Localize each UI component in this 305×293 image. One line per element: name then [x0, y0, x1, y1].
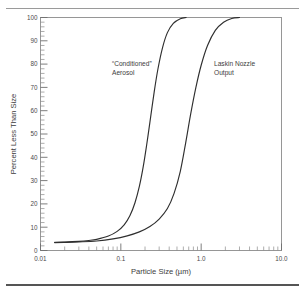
particle-size-plot: 0102030405060708090100 0.010.11.010.0 “C…	[0, 0, 305, 293]
y-tick-label-50: 50	[30, 130, 38, 137]
y-axis-major-ticks	[41, 18, 48, 251]
x-axis-tick-labels: 0.010.11.010.0	[34, 255, 288, 262]
y-axis-tick-labels: 0102030405060708090100	[27, 14, 38, 254]
y-tick-label-70: 70	[30, 84, 38, 91]
bottom-divider-rule	[6, 284, 299, 286]
y-axis-title: Percent Less Than Size	[9, 94, 18, 174]
series-label-laskin-nozzle-line1: Laskin Nozzle	[214, 60, 255, 67]
x-tick-label-10: 10.0	[275, 255, 288, 262]
curve-conditioned-aerosol	[55, 18, 186, 243]
series-label-conditioned-aerosol-line1: “Conditioned”	[112, 60, 152, 67]
series-label-conditioned-aerosol-line2: Aerosol	[112, 69, 135, 76]
x-tick-label-0.01: 0.01	[34, 255, 47, 262]
x-axis-major-ticks	[41, 244, 282, 251]
x-tick-label-0.1: 0.1	[116, 255, 125, 262]
x-axis-minor-ticks	[65, 247, 278, 251]
y-tick-label-100: 100	[27, 14, 38, 21]
series-label-laskin-nozzle-line2: Output	[214, 69, 234, 77]
y-tick-label-90: 90	[30, 37, 38, 44]
y-tick-label-30: 30	[30, 177, 38, 184]
y-tick-label-10: 10	[30, 224, 38, 231]
top-divider-rule	[6, 8, 299, 9]
x-tick-label-1: 1.0	[197, 255, 206, 262]
y-tick-label-80: 80	[30, 60, 38, 67]
x-axis-title: Particle Size (µm)	[131, 267, 192, 276]
y-tick-label-40: 40	[30, 154, 38, 161]
y-tick-label-60: 60	[30, 107, 38, 114]
y-tick-label-0: 0	[34, 247, 38, 254]
y-tick-label-20: 20	[30, 200, 38, 207]
chart-figure: 0102030405060708090100 0.010.11.010.0 “C…	[0, 0, 305, 293]
curve-laskin-nozzle-output	[55, 18, 240, 243]
